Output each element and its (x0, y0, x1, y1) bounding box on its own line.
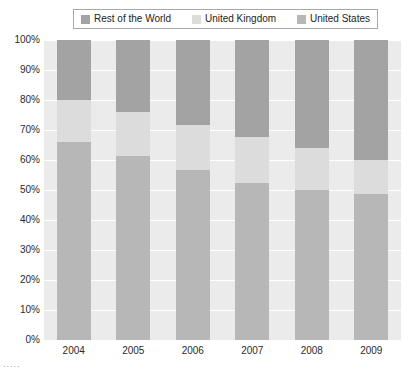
legend-swatch-icon (81, 15, 90, 24)
chart-legend: Rest of the WorldUnited KingdomUnited St… (73, 9, 378, 29)
y-axis: 100%90%80%70%60%50%40%30%20%10%0% (0, 40, 40, 340)
bar-segment[interactable] (116, 156, 150, 341)
bar-segment[interactable] (235, 183, 269, 340)
gridline (44, 160, 401, 161)
x-axis-tick-label: 2008 (287, 345, 337, 357)
bar-group[interactable] (116, 40, 150, 340)
gridline (44, 220, 401, 221)
gridline (44, 310, 401, 311)
legend-entry[interactable]: United States (297, 14, 370, 24)
bar-segment[interactable] (295, 148, 329, 190)
bar-segment[interactable] (354, 160, 388, 194)
gridline (44, 250, 401, 251)
y-axis-tick-label: 40% (0, 215, 40, 225)
gridline (44, 130, 401, 131)
gridline (44, 280, 401, 281)
x-axis-tick-label: 2007 (227, 345, 277, 357)
legend-label: Rest of the World (94, 14, 171, 24)
x-axis-tick-label: 2005 (108, 345, 158, 357)
bar-segment[interactable] (116, 112, 150, 156)
bar-segment[interactable] (176, 125, 210, 170)
y-axis-tick-label: 80% (0, 95, 40, 105)
bar-segment[interactable] (354, 40, 388, 160)
bar-group[interactable] (295, 40, 329, 340)
x-axis-tick-label: 2006 (168, 345, 218, 357)
y-axis-tick-label: 0% (0, 335, 40, 345)
legend-entry[interactable]: Rest of the World (81, 14, 171, 24)
bar-segment[interactable] (57, 100, 91, 142)
bar-segment[interactable] (176, 40, 210, 125)
y-axis-tick-label: 90% (0, 65, 40, 75)
bar-segment[interactable] (295, 190, 329, 340)
bar-segment[interactable] (176, 170, 210, 340)
gridline (44, 40, 401, 41)
bar-group[interactable] (354, 40, 388, 340)
page-artifact-dots: ..... (3, 360, 21, 369)
y-axis-tick-label: 10% (0, 305, 40, 315)
bar-group[interactable] (235, 40, 269, 340)
bar-group[interactable] (176, 40, 210, 340)
plot-area (44, 40, 401, 340)
y-axis-tick-label: 50% (0, 185, 40, 195)
legend-swatch-icon (297, 15, 306, 24)
x-axis-tick-label: 2004 (49, 345, 99, 357)
gridline (44, 190, 401, 191)
y-axis-tick-label: 60% (0, 155, 40, 165)
y-axis-tick-label: 70% (0, 125, 40, 135)
bar-segment[interactable] (57, 40, 91, 100)
y-axis-tick-label: 20% (0, 275, 40, 285)
bar-segment[interactable] (235, 137, 269, 183)
bar-segment[interactable] (57, 142, 91, 340)
bar-segment[interactable] (235, 40, 269, 137)
x-axis-tick-label: 2009 (346, 345, 396, 357)
bar-segment[interactable] (354, 194, 388, 340)
bar-segment[interactable] (295, 40, 329, 148)
y-axis-tick-label: 100% (0, 35, 40, 45)
legend-entry[interactable]: United Kingdom (192, 14, 276, 24)
stacked-bar-chart: Rest of the WorldUnited KingdomUnited St… (0, 0, 420, 371)
gridline (44, 340, 401, 341)
y-axis-tick-label: 30% (0, 245, 40, 255)
legend-swatch-icon (192, 15, 201, 24)
x-axis: 200420052006200720082009 (44, 343, 401, 361)
legend-label: United States (310, 14, 370, 24)
gridline (44, 70, 401, 71)
legend-label: United Kingdom (205, 14, 276, 24)
bar-segment[interactable] (116, 40, 150, 112)
gridline (44, 100, 401, 101)
bar-group[interactable] (57, 40, 91, 340)
